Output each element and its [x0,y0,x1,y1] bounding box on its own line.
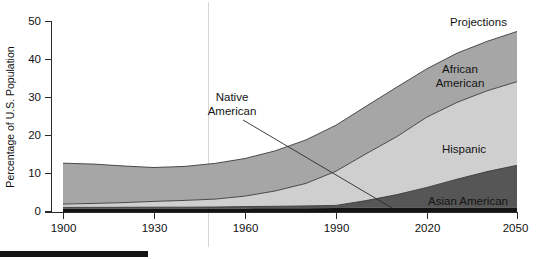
annotation-projections: Projections [450,16,507,28]
bottom-decorative-rule [0,251,148,257]
area-bands [63,32,517,213]
label-hispanic: Hispanic [442,143,486,155]
y-tick-marks [45,22,52,213]
x-tick-label-1960: 1960 [233,222,259,234]
x-tick-marks [64,213,518,220]
y-tick-label-20: 20 [28,129,41,141]
y-axis-title: Percentage of U.S. Population [4,46,16,187]
x-tick-label-2050: 2050 [503,222,529,234]
y-tick-label-10: 10 [28,167,41,179]
y-tick-label-30: 30 [28,91,41,103]
y-tick-label-40: 40 [28,53,41,65]
x-tick-label-1900: 1900 [51,222,77,234]
chart-figure: 50 40 30 20 10 0 1900 1930 1960 1990 202… [0,0,541,259]
label-asian-american: Asian American [428,195,508,207]
label-native-american-line1: Native [216,91,249,103]
x-tick-label-2020: 2020 [415,222,441,234]
label-african-american-line2: American [436,77,485,89]
label-african-american-line1: African [442,63,478,75]
y-tick-label-0: 0 [35,205,41,217]
y-tick-label-50: 50 [28,15,41,27]
x-tick-label-1930: 1930 [142,222,168,234]
stacked-area-chart: 50 40 30 20 10 0 1900 1930 1960 1990 202… [0,0,541,259]
label-native-american-line2: American [208,105,257,117]
x-tick-label-1990: 1990 [324,222,350,234]
